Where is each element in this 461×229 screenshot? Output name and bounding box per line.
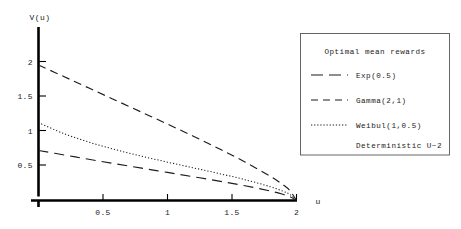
legend-title: Optimal mean rewards [324, 48, 425, 56]
legend-note-deterministic: Deterministic U~2 [356, 142, 442, 150]
y-tick-label-0p5: 0.5 [17, 161, 33, 170]
chart-figure: 2 1.5 1 0.5 0.5 1 1.5 2 V(u) u Optimal m… [0, 0, 461, 229]
x-tick-label-0p5: 0.5 [95, 208, 111, 217]
plot-svg: 2 1.5 1 0.5 0.5 1 1.5 2 V(u) u Optimal m… [0, 0, 461, 229]
x-tick-label-2: 2 [294, 208, 299, 217]
x-tick-label-1: 1 [165, 208, 170, 217]
x-axis-title: u [315, 197, 320, 206]
legend-label-gamma: Gamma(2,1) [356, 97, 407, 105]
legend-label-exp: Exp(0.5) [356, 72, 396, 80]
y-tick-label-1: 1 [28, 127, 33, 136]
y-tick-label-2: 2 [28, 58, 33, 67]
x-tick-label-1p5: 1.5 [224, 208, 240, 217]
y-axis-title: V(u) [30, 13, 51, 22]
legend-label-weibul: Weibul(1,0.5) [356, 122, 422, 130]
legend: Optimal mean rewards Exp(0.5) Gamma(2,1)… [301, 34, 450, 156]
curve-weibul [39, 123, 297, 201]
curve-gamma [39, 65, 297, 201]
curve-exp [39, 150, 297, 200]
y-tick-label-1p5: 1.5 [17, 92, 33, 101]
